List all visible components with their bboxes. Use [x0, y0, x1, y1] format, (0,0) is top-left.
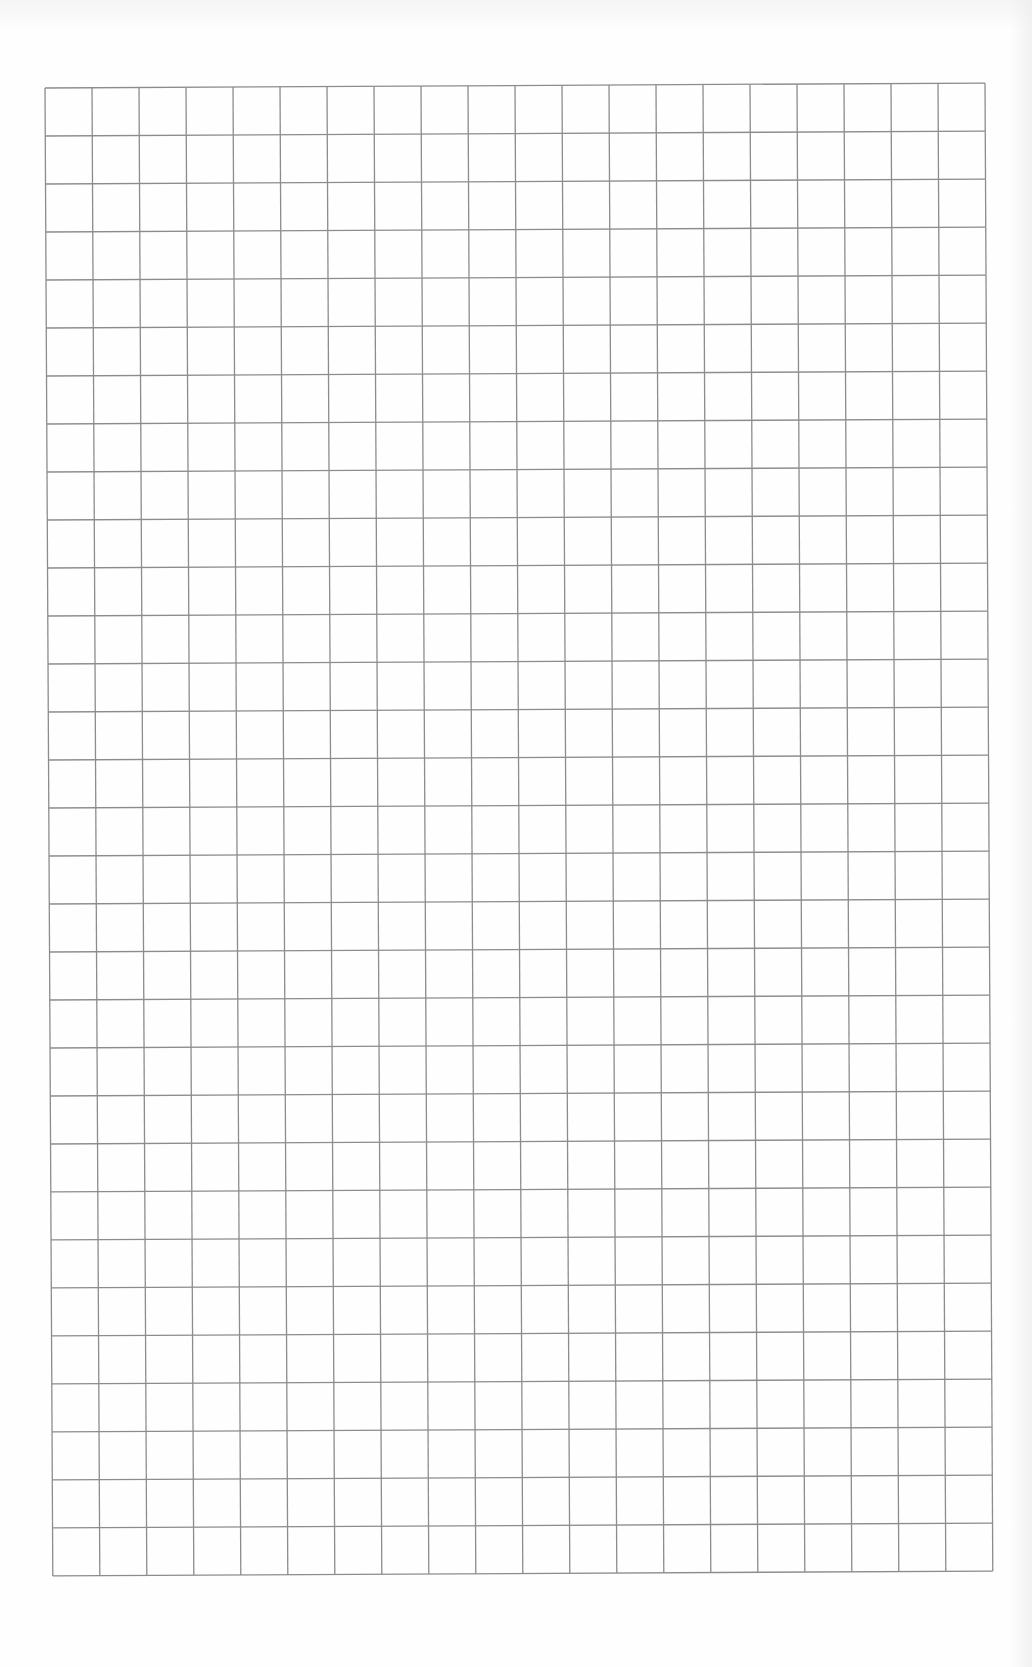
grid-container: [43, 81, 995, 1578]
grid-line-vertical: [609, 85, 617, 1573]
grid-line-vertical: [985, 83, 993, 1571]
grid-line-vertical: [703, 85, 711, 1573]
grid-line-vertical: [139, 87, 147, 1575]
grid-line-vertical: [797, 84, 805, 1572]
square-grid: [43, 81, 995, 1578]
grid-line-vertical: [280, 87, 288, 1575]
grid-line-vertical: [750, 84, 758, 1572]
grid-line-vertical: [891, 84, 899, 1572]
grid-line-vertical: [656, 85, 664, 1573]
grid-line-vertical: [233, 87, 241, 1575]
scan-edge-shading: [1010, 0, 1032, 1667]
grid-line-vertical: [515, 86, 523, 1574]
grid-line-vertical: [938, 83, 946, 1571]
grid-line-vertical: [374, 86, 382, 1574]
grid-line-vertical: [421, 86, 429, 1574]
grid-line-vertical: [92, 88, 100, 1576]
grid-line-vertical: [327, 87, 335, 1575]
grid-line-vertical: [45, 88, 53, 1576]
grid-line-vertical: [844, 84, 852, 1572]
grid-line-vertical: [562, 85, 570, 1573]
grid-line-vertical: [186, 87, 194, 1575]
graph-paper-page: [0, 0, 1032, 1667]
grid-line-vertical: [468, 86, 476, 1574]
scan-top-shading: [0, 0, 1032, 30]
